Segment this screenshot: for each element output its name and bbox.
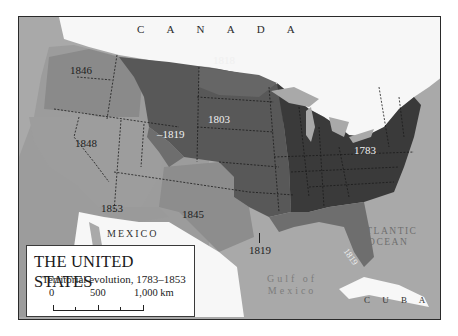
map-frame: C A N A D A MEXICO ATLANTIC OCEAN Gulf o… — [18, 16, 441, 320]
scale-label-0: 0 — [49, 287, 54, 298]
label-canada: C A N A D A — [137, 24, 305, 35]
label-mexico: MEXICO — [107, 229, 158, 239]
year-label-1819-west: –1819 — [157, 129, 185, 140]
label-cuba: C U B A — [364, 296, 430, 305]
year-label-1845: 1845 — [182, 209, 204, 220]
year-label-1783: 1783 — [354, 145, 376, 156]
map-legend: THE UNITED STATES Territorial evolution,… — [26, 245, 195, 317]
scale-label-500: 500 — [90, 287, 106, 298]
year-label-1803: 1803 — [208, 114, 230, 125]
year-label-1818: 1818 — [213, 55, 235, 66]
year-label-1848: 1848 — [75, 138, 97, 149]
label-atlantic-ocean: ATLANTIC OCEAN — [359, 226, 417, 248]
scale-bar — [53, 304, 144, 311]
year-label-1819-south: 1819 — [249, 245, 271, 256]
pointer-line-1819 — [259, 233, 260, 243]
year-label-1846: 1846 — [70, 65, 92, 76]
year-label-1853: 1853 — [101, 203, 123, 214]
map-title: THE UNITED STATES — [34, 252, 194, 292]
label-gulf-of-mexico: Gulf of Mexico — [267, 273, 317, 297]
map-subtitle: Territorial evolution, 1783–1853 — [42, 273, 186, 285]
scale-label-1000: 1,000 km — [134, 287, 174, 298]
